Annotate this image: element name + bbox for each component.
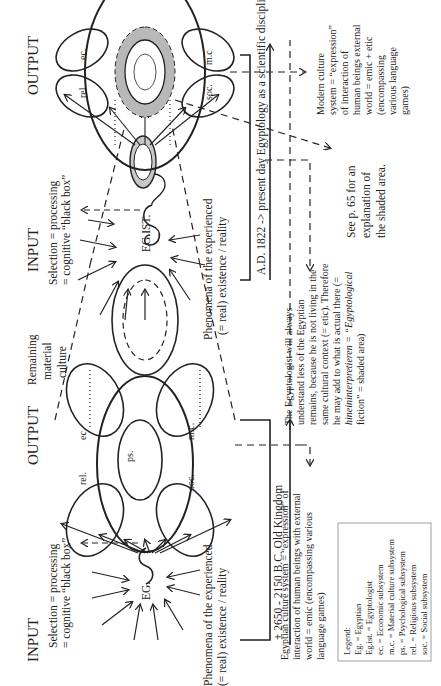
note-line: (encompassing xyxy=(375,55,387,115)
note-line: world = emic + etic xyxy=(363,36,374,115)
phenomena-label-1b: (= real) existence / reality xyxy=(216,568,229,686)
legend-item: ps. = Psychological subsystem xyxy=(397,551,407,655)
output-label-1: OUTPUT xyxy=(25,406,41,465)
note-line: See p. 65 for an xyxy=(345,165,358,238)
note-line: The Egyptologist will always xyxy=(283,307,294,425)
note-line: Modern culture xyxy=(315,53,326,115)
subsystem-rel-1: rel. xyxy=(77,472,88,485)
input-label-1: INPUT xyxy=(25,618,41,662)
modern-culture-note: Modern culture system = “expression” of … xyxy=(315,24,411,115)
phenomena-label-2b: (= real) existence / reality xyxy=(216,217,229,335)
subsystem-mc-1: m.c. xyxy=(185,423,196,440)
legend-item: rel. = Religious subsystem xyxy=(408,564,418,655)
note-line: language games) xyxy=(315,593,327,660)
egyptian-culture-note: Egyptian culture system = “expression” o… xyxy=(279,490,327,660)
present-day-label: A.D. 1822 -> present day Egyptology as a… xyxy=(255,0,268,275)
subsystem-rel-2: rel. xyxy=(77,85,88,98)
input-label-2: INPUT xyxy=(25,228,41,272)
subsystem-ec-2: ec. xyxy=(77,49,88,60)
output-label-2: OUTPUT xyxy=(25,36,41,95)
diagram: INPUT OUTPUT INPUT OUTPUT Selection = pr… xyxy=(0,0,441,686)
eg-label: EG. xyxy=(140,582,152,600)
selection-label-1a: Selection = processing xyxy=(47,544,60,648)
note-line: remains, because he is not living in the xyxy=(307,269,318,425)
selection-label-2a: Selection = processing xyxy=(47,181,60,285)
legend-item: Eg.ist. = Egyptologist xyxy=(364,580,374,655)
legend-item: ec. = Economic subsystem xyxy=(375,564,385,655)
note-line: interaction of human beings with externa… xyxy=(291,493,302,660)
subsystem-mc-2: m.c xyxy=(203,50,214,65)
remaining-label-a: Remaining xyxy=(26,334,39,385)
legend: Legend: Eg. = Egyptian Eg.ist. = Egyptol… xyxy=(338,523,431,661)
note-line: he may add to what is actual there (= xyxy=(331,277,343,425)
selection-label-2b: = cognitive “black box” xyxy=(60,175,73,285)
subsystem-ps-1: ps. xyxy=(124,451,135,462)
legend-item: Eg. = Egyptian xyxy=(353,603,363,655)
note-line: various language xyxy=(387,46,398,115)
phenomena-label-1a: Phenomena of the experienced xyxy=(202,544,215,686)
note-line: games) xyxy=(399,86,411,115)
egyptologist-note: The Egyptologist will always understand … xyxy=(283,263,367,425)
remaining-label-c: culture xyxy=(56,346,68,378)
note-line: of interaction of xyxy=(339,50,350,115)
subsystem-soc-1: soc. xyxy=(185,474,196,490)
note-line: explanation of xyxy=(360,172,373,238)
note-line: fiction” = shaded area) xyxy=(355,334,367,425)
note-line: system = “expression” xyxy=(327,25,338,115)
legend-item: m.c. = Material culture subsystem xyxy=(386,539,396,655)
egist-label: EG.IST. xyxy=(140,214,152,252)
remaining-label-b: material xyxy=(41,342,53,380)
egyptian-selection-symbol xyxy=(139,548,153,584)
note-line: same cultural context (= etic). Therefor… xyxy=(319,263,331,425)
selection-label-1b: = cognitive “black box” xyxy=(60,538,73,648)
phenomena-label-2a: Phenomena of the experienced xyxy=(202,198,215,340)
note-line: understand less of the Egyptian xyxy=(295,299,306,425)
note-line: world = emic (encompassing various xyxy=(303,512,315,660)
note-line: Egyptian culture system = “expression” o… xyxy=(279,490,290,660)
subsystem-soc-2: soc. xyxy=(203,84,214,100)
legend-title: Legend: xyxy=(342,627,352,655)
legend-item: soc. = Social subsystem xyxy=(419,573,429,655)
note-line: the shaded area. xyxy=(375,164,387,238)
subsystem-ec-1: ec. xyxy=(77,429,88,440)
note-line: hineininterpretieren = “Egyptological xyxy=(343,272,354,425)
egyptian-output-ellipse xyxy=(55,355,224,566)
note-line: human beings external xyxy=(351,24,362,115)
see-page-note: See p. 65 for an explanation of the shad… xyxy=(345,164,387,238)
